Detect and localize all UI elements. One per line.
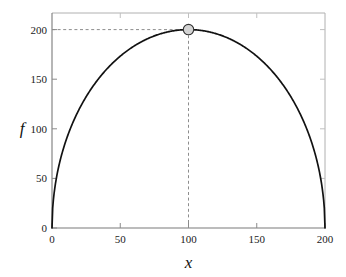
y-tick-label-100: 100: [31, 123, 48, 135]
y-tick-label-50: 50: [36, 172, 48, 184]
x-tick-label-150: 150: [249, 233, 266, 245]
y-axis-title: f: [20, 119, 27, 138]
x-tick-label-50: 50: [115, 233, 127, 245]
x-axis-title: x: [184, 253, 193, 272]
chart-canvas: 0 50 100 150 200 0 50 100 150 200 f x: [0, 0, 346, 277]
y-tick-label-150: 150: [31, 73, 48, 85]
y-tick-label-200: 200: [31, 24, 48, 36]
chart-figure: 0 50 100 150 200 0 50 100 150 200 f x: [0, 0, 346, 277]
maximum-point-marker[interactable]: [183, 24, 193, 34]
x-tick-label-100: 100: [180, 233, 197, 245]
y-tick-label-0: 0: [42, 222, 48, 234]
x-tick-label-200: 200: [317, 233, 334, 245]
x-tick-label-0: 0: [49, 233, 55, 245]
